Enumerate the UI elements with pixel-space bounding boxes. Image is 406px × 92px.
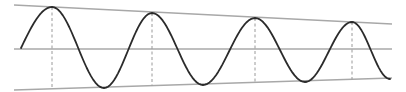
damped-oscillation-diagram bbox=[0, 0, 406, 92]
lower-envelope-line bbox=[14, 78, 392, 90]
oscillation-wave bbox=[21, 7, 390, 88]
upper-envelope-line bbox=[14, 5, 392, 24]
